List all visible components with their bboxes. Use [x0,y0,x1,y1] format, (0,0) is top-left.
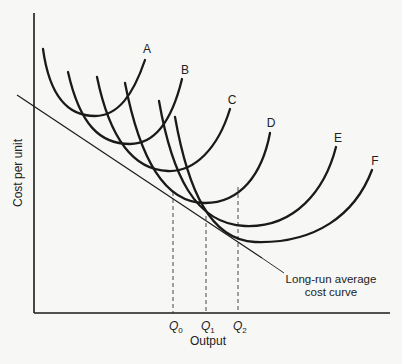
q1-label: Q1 [201,319,215,335]
q2-label: Q2 [233,319,247,335]
q0-label: Q0 [169,319,183,335]
svg-text:Q2: Q2 [233,319,247,335]
curve-label-a: A [143,42,151,56]
curve-label-c: C [228,93,237,107]
svg-text:Q1: Q1 [201,319,215,335]
x-axis-label: Output [190,334,227,348]
y-axis-label: Cost per unit [11,138,25,207]
curve-label-d: D [267,116,276,130]
svg-text:Q0: Q0 [169,319,183,335]
srac-curve-d [125,83,270,203]
cost-curves-diagram: A B C D E F Long-run average cost curve … [0,0,402,364]
lrac-label-line2: cost curve [305,286,357,298]
curve-label-e: E [334,131,342,145]
curve-label-f: F [371,154,378,168]
lrac-leader-line [262,258,284,273]
curve-label-b: B [181,63,189,77]
lrac-label-line1: Long-run average [286,273,377,285]
